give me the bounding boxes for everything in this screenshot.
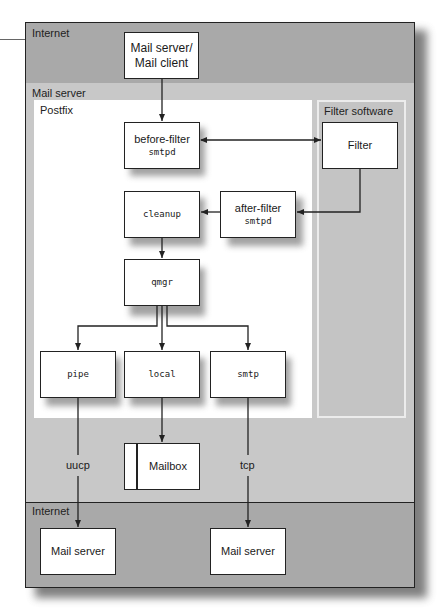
node-qmgr: qmgr [124,259,200,306]
node-local-label: local [148,368,175,381]
connection-label-uucp: uucp [64,459,92,471]
node-after-filter-label: after-filter [235,202,281,215]
node-cleanup: cleanup [124,191,200,238]
node-before-filter: before-filter smtpd [124,122,200,169]
node-pipe-label: pipe [67,368,89,381]
node-filter-label: Filter [348,139,372,152]
connection-label-tcp: tcp [238,459,257,471]
node-pipe: pipe [40,351,116,398]
node-mail-server-left: Mail server [40,528,116,575]
node-after-filter: after-filter smtpd [220,191,296,238]
node-after-filter-sub: smtpd [244,215,271,228]
label-filter-software: Filter software [324,105,393,117]
node-mail-server-left-label: Mail server [51,545,105,558]
node-mail-server-right: Mail server [210,528,286,575]
node-mail-client-line2: Mail client [135,56,188,71]
node-filter: Filter [322,122,398,169]
node-cleanup-label: cleanup [143,208,181,221]
label-postfix: Postfix [40,104,73,116]
node-local: local [124,351,200,398]
node-mailbox-label: Mailbox [149,460,187,473]
zone-internet-top [25,22,415,84]
node-before-filter-label: before-filter [134,133,190,146]
leader-line [0,39,25,40]
node-mail-server-right-label: Mail server [221,545,275,558]
label-internet-top: Internet [32,27,69,39]
node-smtp: smtp [210,351,286,398]
label-internet-bottom: Internet [32,505,69,517]
node-mail-client: Mail server/ Mail client [124,32,199,79]
node-mail-client-line1: Mail server/ [130,41,192,56]
label-mail-server: Mail server [32,87,86,99]
mailbox-divider [136,443,138,490]
node-smtp-label: smtp [237,368,259,381]
node-qmgr-label: qmgr [151,276,173,289]
node-before-filter-sub: smtpd [148,146,175,159]
